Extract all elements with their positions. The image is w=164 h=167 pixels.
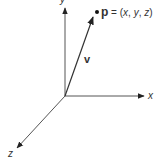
point-p-dot [95, 10, 99, 14]
axes-svg [0, 0, 164, 167]
point-p-label: p = (x, y, z) [101, 6, 153, 18]
x-axis-label: x [148, 91, 153, 101]
y-axis-label: y [60, 0, 65, 5]
equals-sign: = ( [108, 7, 123, 18]
coordinate-diagram: y x z v p = (x, y, z) [0, 0, 164, 167]
z-axis-label: z [8, 149, 13, 159]
z-axis [17, 96, 65, 148]
close-paren: ) [149, 7, 152, 18]
vector-v-label: v [84, 54, 90, 65]
